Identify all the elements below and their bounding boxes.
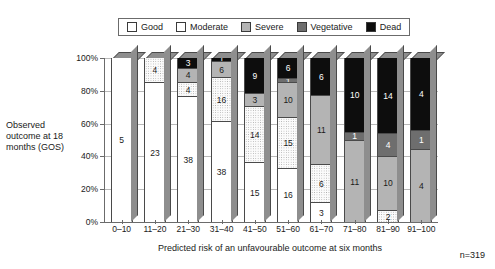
- bar-segment-severe: 6: [212, 62, 232, 79]
- legend-label: Dead: [380, 23, 402, 32]
- chart-legend: GoodModerateSevereVegetativeDead: [118, 18, 410, 36]
- bar-segment-value: 4: [419, 89, 424, 99]
- bar-segment-vegetative: 1: [411, 131, 431, 150]
- legend-label: Vegetative: [311, 23, 353, 32]
- bar-slot: 931415: [238, 58, 271, 222]
- bar-segment-vegetative: 1: [345, 133, 365, 141]
- bar-segment-value: 1: [352, 133, 357, 141]
- legend-item-moderate: Moderate: [176, 22, 228, 32]
- x-axis-tick-label: 31–40: [205, 224, 238, 234]
- bar-segment-good: 15: [245, 163, 265, 222]
- bar-segment-severe: 4: [178, 69, 198, 83]
- x-axis-tick-label: 51–60: [271, 224, 304, 234]
- bar-segment-severe: 10: [278, 83, 298, 117]
- bar-segment-value: 10: [383, 178, 392, 188]
- stacked-bar: 10111: [344, 58, 366, 222]
- bar-segment-severe: 3: [245, 94, 265, 107]
- bar-segment-value: 3: [186, 58, 191, 68]
- y-axis-tick-label: 60%: [81, 119, 105, 129]
- x-axis-tick-label: 21–30: [172, 224, 205, 234]
- stacked-bar: 144102: [377, 58, 399, 222]
- bar-segment-value: 4: [386, 140, 391, 150]
- bar-segment-value: 2: [386, 212, 391, 222]
- bar-segment-dead: 10: [345, 58, 365, 133]
- legend-label: Good: [141, 23, 163, 32]
- bar-segment-value: 5: [119, 135, 124, 145]
- x-axis-tick-label: 81–90: [371, 224, 404, 234]
- bar-segment-value: 4: [186, 70, 191, 80]
- x-axis-tick-label: 91–100: [405, 224, 438, 234]
- y-axis-tick-label: 80%: [81, 86, 105, 96]
- bar-segment-good: 38: [212, 122, 232, 222]
- bar-segment-dead: 6: [278, 58, 298, 79]
- bar-segment-dead: 3: [178, 58, 198, 69]
- bar-segment-moderate: 4: [178, 83, 198, 97]
- bar-segment-dead: 9: [245, 58, 265, 94]
- bar-segment-value: 16: [283, 190, 292, 200]
- legend-swatch-dead-icon: [366, 22, 376, 32]
- x-axis-tick-label: 71–80: [338, 224, 371, 234]
- bar-segment-severe: 11: [345, 141, 365, 222]
- legend-swatch-good-icon: [127, 22, 137, 32]
- bar-group: 5423344381616389314156110151661163101111…: [105, 58, 438, 222]
- bar-slot: 423: [138, 58, 171, 222]
- stacked-bar: 161638: [211, 58, 233, 222]
- stacked-bar-chart: GoodModerateSevereVegetativeDead Observe…: [0, 0, 495, 269]
- bar-segment-value: 4: [419, 181, 424, 191]
- legend-label: Severe: [255, 23, 284, 32]
- stacked-bar: 423: [144, 58, 166, 222]
- legend-item-vegetative: Vegetative: [297, 22, 353, 32]
- stacked-bar: 61101516: [277, 58, 299, 222]
- x-axis-tick-label: 11–20: [138, 224, 171, 234]
- bar-segment-dead: 14: [378, 58, 398, 134]
- x-axis-tick-label: 61–70: [305, 224, 338, 234]
- bar-segment-moderate: 2: [378, 211, 398, 222]
- y-axis-title: Observed outcome at 18 months (GOS): [6, 120, 72, 153]
- stacked-bar: 61163: [310, 58, 332, 222]
- legend-swatch-severe-icon: [241, 22, 251, 32]
- bar-segment-value: 10: [283, 95, 292, 105]
- y-axis-tick-label: 20%: [81, 184, 105, 194]
- plot-area: 0%20%40%60%80%100% 542334438161638931415…: [105, 58, 438, 222]
- bar-slot: 5: [105, 58, 138, 222]
- x-axis-ticks: 0–1011–2021–3031–4041–5051–6061–7071–808…: [105, 224, 438, 234]
- bar-segment-value: 14: [383, 91, 392, 101]
- bar-segment-value: 6: [286, 63, 291, 73]
- legend-item-severe: Severe: [241, 22, 284, 32]
- bar-segment-good: 38: [178, 97, 198, 222]
- bar-segment-value: 4: [186, 85, 191, 95]
- bar-segment-value: 6: [319, 72, 324, 82]
- legend-label: Moderate: [190, 23, 228, 32]
- bar-segment-severe: 4: [411, 150, 431, 222]
- bar-segment-value: 3: [319, 208, 324, 218]
- x-axis-title: Predicted risk of an unfavourable outcom…: [105, 243, 435, 253]
- bar-segment-value: 3: [252, 95, 257, 105]
- x-axis-tick-label: 41–50: [238, 224, 271, 234]
- legend-swatch-moderate-icon: [176, 22, 186, 32]
- bar-segment-value: 11: [317, 125, 326, 135]
- bar-segment-good: 16: [278, 169, 298, 222]
- stacked-bar: 34438: [177, 58, 199, 222]
- bar-slot: 161638: [205, 58, 238, 222]
- bar-segment-value: 38: [217, 167, 226, 177]
- bar-slot: 10111: [338, 58, 371, 222]
- bar-slot: 144102: [371, 58, 404, 222]
- y-axis-tick-label: 40%: [81, 151, 105, 161]
- x-axis-tick-label: 0–10: [105, 224, 138, 234]
- bar-slot: 61101516: [271, 58, 304, 222]
- stacked-bar: 414: [410, 58, 432, 222]
- bar-segment-value: 6: [319, 179, 324, 189]
- bar-segment-severe: 11: [311, 96, 331, 165]
- bar-segment-value: 38: [184, 155, 193, 165]
- bar-segment-value: 23: [150, 148, 159, 158]
- sample-size-note: n=319: [460, 250, 485, 260]
- bar-segment-moderate: 4: [145, 58, 165, 83]
- bar-segment-value: 10: [350, 90, 359, 100]
- bar-segment-dead: 4: [411, 58, 431, 131]
- bar-slot: 61163: [305, 58, 338, 222]
- bar-segment-good: 23: [145, 83, 165, 222]
- bar-segment-value: 9: [252, 71, 257, 81]
- bar-segment-value: 4: [153, 65, 158, 75]
- legend-item-good: Good: [127, 22, 163, 32]
- bar-slot: 414: [405, 58, 438, 222]
